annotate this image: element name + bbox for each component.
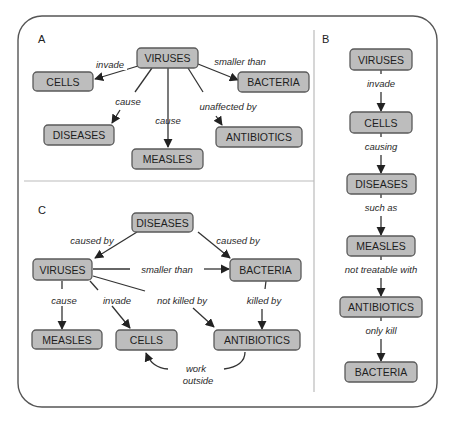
node-a-viruses: VIRUSES xyxy=(137,48,198,68)
node-c-bacteria: BACTERIA xyxy=(230,259,301,281)
link-c-caused-by-left: caused by xyxy=(70,235,115,246)
link-a-smaller-than: smaller than xyxy=(214,56,266,67)
svg-text:VIRUSES: VIRUSES xyxy=(144,52,190,64)
svg-text:MEASLES: MEASLES xyxy=(356,240,406,252)
link-c-cause: cause xyxy=(51,295,76,306)
link-c-invade: invade xyxy=(103,295,131,306)
svg-text:CELLS: CELLS xyxy=(46,76,79,88)
link-b-not-treatable-with: not treatable with xyxy=(345,264,417,275)
link-c-not-killed-by: not killed by xyxy=(157,295,208,306)
svg-text:BACTERIA: BACTERIA xyxy=(247,76,300,88)
node-a-antibiotics: ANTIBIOTICS xyxy=(216,127,302,147)
node-b-viruses: VIRUSES xyxy=(350,49,412,70)
svg-text:BACTERIA: BACTERIA xyxy=(239,264,292,276)
link-b-invade: invade xyxy=(367,78,395,89)
node-a-diseases: DISEASES xyxy=(44,125,114,145)
panel-c-letter: C xyxy=(38,204,46,216)
svg-text:ANTIBIOTICS: ANTIBIOTICS xyxy=(348,301,414,313)
node-a-bacteria: BACTERIA xyxy=(238,72,309,92)
node-b-measles: MEASLES xyxy=(347,236,415,256)
link-c-work-outside-line2: outside xyxy=(183,375,214,386)
panel-a-letter: A xyxy=(38,33,46,45)
node-c-diseases: DISEASES xyxy=(132,213,193,232)
link-a-cause-diseases: cause xyxy=(115,96,140,107)
link-b-causing: causing xyxy=(365,141,398,152)
link-c-caused-by-right: caused by xyxy=(216,235,261,246)
link-a-cause-measles: cause xyxy=(155,115,180,126)
node-c-viruses: VIRUSES xyxy=(33,259,92,280)
link-b-only-kill: only kill xyxy=(365,325,397,336)
node-b-antibiotics: ANTIBIOTICS xyxy=(340,297,422,317)
link-a-invade: invade xyxy=(96,59,124,70)
link-c-killed-by: killed by xyxy=(247,295,283,306)
link-b-such-as: such as xyxy=(365,202,398,213)
node-c-measles: MEASLES xyxy=(32,330,102,349)
node-c-cells: CELLS xyxy=(116,330,177,350)
link-a-unaffected-by: unaffected by xyxy=(199,101,257,112)
concept-map-figure: A invade smaller than cause cause unaffe… xyxy=(0,0,450,423)
link-c-smaller-than: smaller than xyxy=(141,264,193,275)
link-c-work-outside-line1: work xyxy=(186,363,207,374)
svg-text:VIRUSES: VIRUSES xyxy=(39,264,85,276)
svg-text:DISEASES: DISEASES xyxy=(355,178,408,190)
node-b-cells: CELLS xyxy=(350,112,412,133)
svg-text:VIRUSES: VIRUSES xyxy=(358,54,404,66)
node-a-cells: CELLS xyxy=(33,72,93,91)
svg-text:DISEASES: DISEASES xyxy=(136,217,189,229)
node-a-measles: MEASLES xyxy=(132,149,203,169)
svg-text:BACTERIA: BACTERIA xyxy=(355,366,408,378)
svg-text:CELLS: CELLS xyxy=(364,117,397,129)
svg-text:ANTIBIOTICS: ANTIBIOTICS xyxy=(224,334,290,346)
node-c-antibiotics: ANTIBIOTICS xyxy=(214,330,300,350)
node-b-bacteria: BACTERIA xyxy=(345,362,417,382)
svg-text:MEASLES: MEASLES xyxy=(143,153,193,165)
panel-b-letter: B xyxy=(322,33,329,45)
node-b-diseases: DISEASES xyxy=(347,174,416,194)
svg-text:ANTIBIOTICS: ANTIBIOTICS xyxy=(226,131,292,143)
svg-text:MEASLES: MEASLES xyxy=(42,334,92,346)
svg-text:DISEASES: DISEASES xyxy=(53,129,106,141)
svg-text:CELLS: CELLS xyxy=(130,334,163,346)
